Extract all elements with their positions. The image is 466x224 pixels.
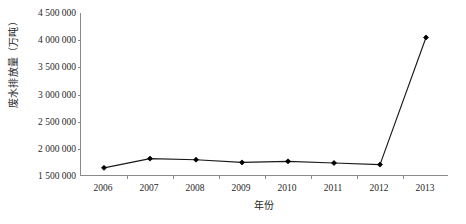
data-point-marker bbox=[240, 160, 245, 165]
y-axis-tick-mark bbox=[78, 122, 82, 123]
x-axis-tick-mark bbox=[265, 175, 266, 179]
series-marker-group bbox=[102, 35, 429, 170]
x-axis-tick-label-group: 20062007200820092010201120122013 bbox=[80, 182, 448, 196]
y-axis-tick-mark bbox=[78, 67, 82, 68]
x-axis-tick-label: 2007 bbox=[126, 182, 172, 194]
data-point-marker bbox=[424, 35, 429, 40]
x-axis-tick-mark bbox=[311, 175, 312, 179]
x-axis-tick-label: 2011 bbox=[310, 182, 356, 194]
data-series-canvas bbox=[81, 13, 449, 176]
x-axis-tick-label: 2012 bbox=[356, 182, 402, 194]
y-axis-tick-label-group: 1 500 0002 000 0002 500 0003 000 0003 50… bbox=[18, 9, 76, 177]
data-point-marker bbox=[148, 156, 153, 161]
series-line-wastewater bbox=[104, 37, 426, 167]
data-point-marker bbox=[332, 160, 337, 165]
y-axis-tick-label: 1 500 000 bbox=[18, 171, 76, 181]
y-axis-tick-label: 3 000 000 bbox=[18, 90, 76, 100]
y-axis-tick-mark bbox=[78, 95, 82, 96]
data-point-marker bbox=[286, 159, 291, 164]
x-axis-tick-label: 2010 bbox=[264, 182, 310, 194]
x-axis-tick-label: 2009 bbox=[218, 182, 264, 194]
y-axis-tick-label: 4 000 000 bbox=[18, 35, 76, 45]
x-axis-tick-label: 2006 bbox=[80, 182, 126, 194]
y-axis-tick-mark bbox=[78, 149, 82, 150]
y-axis-tick-mark bbox=[78, 40, 82, 41]
data-point-marker bbox=[194, 157, 199, 162]
y-axis-tick-label: 2 000 000 bbox=[18, 144, 76, 154]
x-axis-tick-mark bbox=[219, 175, 220, 179]
data-point-marker bbox=[378, 162, 383, 167]
x-axis-tick-label: 2008 bbox=[172, 182, 218, 194]
y-axis-tick-label: 2 500 000 bbox=[18, 117, 76, 127]
x-axis-tick-mark bbox=[173, 175, 174, 179]
x-axis-tick-mark bbox=[357, 175, 358, 179]
y-axis-tick-label: 3 500 000 bbox=[18, 62, 76, 72]
x-axis-tick-mark bbox=[403, 175, 404, 179]
x-axis-title: 年份 bbox=[80, 200, 448, 212]
x-axis-tick-mark bbox=[127, 175, 128, 179]
y-axis-tick-label: 4 500 000 bbox=[18, 8, 76, 18]
plot-area bbox=[80, 13, 448, 176]
wastewater-discharge-line-chart: 废水排放量（万吨） 1 500 0002 000 0002 500 0003 0… bbox=[0, 0, 466, 224]
data-point-marker bbox=[102, 165, 107, 170]
x-axis-tick-label: 2013 bbox=[402, 182, 448, 194]
